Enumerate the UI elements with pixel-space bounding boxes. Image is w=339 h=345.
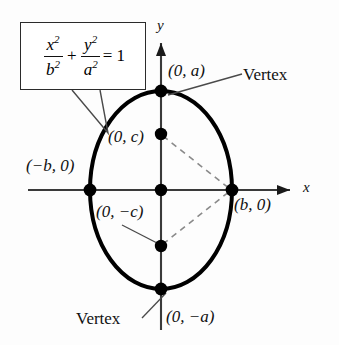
- fraction-numerator-x: x2: [44, 33, 63, 57]
- point-upper-focus: [155, 128, 167, 140]
- dashed-upper-focus-to-covertex: [163, 136, 230, 189]
- fraction-denominator-a: a2: [81, 57, 101, 80]
- point-bottom-vertex: [155, 283, 168, 296]
- label-bottom-vertex-coord: (0, −a): [166, 308, 214, 325]
- x-axis-arrowhead: [277, 185, 290, 195]
- ellipse-figure: x2 b2 + y2 a2 = 1 x y (0, a) Vertex (0, …: [0, 0, 339, 345]
- a-exponent: 2: [92, 58, 98, 70]
- equation-content: x2 b2 + y2 a2 = 1: [21, 23, 145, 89]
- label-right-covertex-coord: (b, 0): [234, 196, 271, 213]
- label-vertex-top: Vertex: [243, 66, 287, 83]
- b-exponent: 2: [55, 58, 61, 70]
- label-vertex-bottom: Vertex: [76, 310, 120, 327]
- fraction-numerator-y: y2: [81, 33, 100, 57]
- point-top-vertex: [155, 85, 168, 98]
- y-axis-arrowhead: [156, 43, 166, 56]
- label-upper-focus-coord: (0, c): [108, 128, 144, 145]
- leader-line-vertex-bottom: [142, 293, 166, 318]
- equals-one: = 1: [103, 46, 125, 66]
- fraction-x-over-b: x2 b2: [43, 33, 63, 79]
- point-left-covertex: [84, 184, 97, 197]
- y-axis-label: y: [157, 18, 164, 33]
- point-center: [155, 184, 167, 196]
- dashed-lower-focus-to-covertex: [163, 191, 230, 244]
- y-exponent: 2: [92, 33, 98, 45]
- point-lower-focus: [155, 240, 167, 252]
- leader-line-focus-lower: [122, 225, 157, 243]
- plus-sign: +: [67, 46, 77, 66]
- x-axis-label: x: [303, 180, 310, 195]
- equation-callout-box: x2 b2 + y2 a2 = 1: [20, 22, 146, 90]
- label-top-vertex-coord: (0, a): [168, 62, 205, 79]
- fraction-denominator-b: b2: [43, 57, 63, 80]
- fraction-y-over-a: y2 a2: [81, 33, 101, 79]
- x-exponent: 2: [54, 33, 60, 45]
- label-left-covertex-coord: (−b, 0): [26, 157, 74, 174]
- callout-pointer: [72, 90, 108, 133]
- label-lower-focus-coord: (0, −c): [96, 203, 143, 220]
